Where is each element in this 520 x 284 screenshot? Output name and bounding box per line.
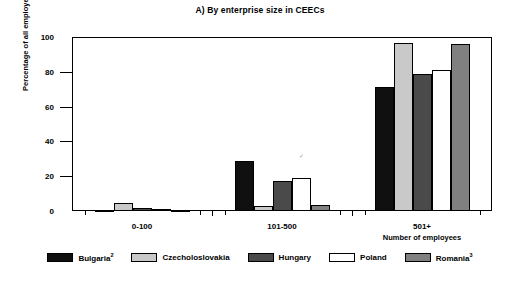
x-tick-mark [212,211,213,216]
bar-romania-101-500 [311,205,330,211]
legend-swatch-icon [329,253,355,262]
legend-swatch-icon [131,253,157,262]
legend-item-poland: Poland [329,253,387,262]
bar-poland-0-100 [152,209,171,211]
bar-romania-501+ [451,44,470,211]
x-tick-mark [480,211,481,215]
y-tick-label: 0 [18,207,54,216]
legend-item-bulgaria: Bulgaria2 [47,252,113,263]
x-tick-mark [200,211,201,215]
bar-bulgaria-0-100 [95,210,114,212]
x-tick-mark [352,211,353,216]
bar-hungary-0-100 [133,208,152,211]
y-tick-mark [60,176,72,177]
x-axis-title: Number of employees [383,233,461,242]
x-category-label: 101-500 [267,222,296,231]
legend-label: Czecholoslovakia [162,253,229,262]
bar-czecholoslovakia-0-100 [114,203,133,211]
x-category-label: 0-100 [132,222,152,231]
y-tick-mark [60,72,72,73]
legend-swatch-icon [248,253,274,262]
bar-romania-0-100 [171,210,190,212]
legend-item-czecholoslovakia: Czecholoslovakia [131,253,229,262]
legend-label: Bulgaria2 [78,252,113,263]
y-tick-mark [60,141,72,142]
x-tick-mark [340,211,341,215]
y-tick-label: 80 [18,67,54,76]
chart-title: A) By enterprise size in CEECs [0,5,520,15]
legend-label: Hungary [279,253,311,262]
bar-hungary-501+ [413,74,432,211]
x-tick-mark [365,211,366,215]
chart-legend: Bulgaria2CzecholoslovakiaHungaryPolandRo… [0,252,520,263]
y-tick-label: 100 [18,33,54,42]
y-tick-label: 60 [18,102,54,111]
legend-footnote-marker: 2 [110,252,113,258]
x-tick-mark [85,211,86,215]
bar-chart: A) By enterprise size in CEECs Percentag… [0,0,520,284]
legend-label: Poland [360,253,387,262]
legend-swatch-icon [405,253,431,262]
legend-swatch-icon [47,253,73,262]
bar-bulgaria-501+ [375,87,394,211]
scan-artifact: ✓ [299,152,304,159]
bar-czecholoslovakia-101-500 [254,206,273,211]
bar-poland-101-500 [292,178,311,211]
bar-czecholoslovakia-501+ [394,43,413,211]
y-tick-label: 20 [18,172,54,181]
legend-footnote-marker: 3 [470,252,473,258]
legend-item-hungary: Hungary [248,253,311,262]
x-tick-mark [225,211,226,215]
x-category-label: 501+ [413,222,431,231]
y-tick-mark [60,107,72,108]
y-tick-label: 40 [18,137,54,146]
bar-bulgaria-101-500 [235,161,254,211]
legend-item-romania: Romania3 [405,252,473,263]
bar-poland-501+ [432,70,451,211]
bar-hungary-101-500 [273,181,292,211]
legend-label: Romania3 [436,252,473,263]
